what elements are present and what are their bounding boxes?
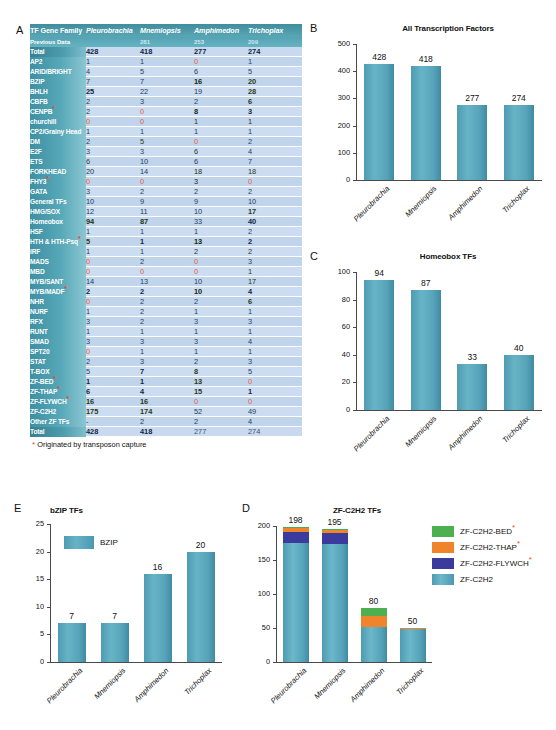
table-cell: 1: [248, 307, 302, 317]
table-row: SMAD3334: [30, 337, 302, 347]
y-tick-label: 0: [326, 175, 350, 184]
y-tick: [47, 552, 50, 553]
table-row: T-BOX5785: [30, 367, 302, 377]
table-cell: 87: [140, 217, 194, 227]
table-cell: 2: [140, 287, 194, 297]
y-tick: [47, 579, 50, 580]
table-cell: 174: [140, 407, 194, 417]
table-row: MYB/SANT14131017: [30, 277, 302, 287]
x-axis: [50, 662, 222, 663]
y-tick: [47, 607, 50, 608]
table-row-label: Total: [30, 427, 86, 437]
table-cell: 5: [86, 237, 140, 247]
table-cell: 1: [86, 377, 140, 387]
table-cell: 0: [140, 107, 194, 117]
table-row: RFX3233: [30, 317, 302, 327]
table-cell: 0: [140, 177, 194, 187]
bar-value-label: 87: [404, 278, 448, 288]
previous-data-value-1: 281: [140, 37, 194, 47]
table-cell: 1: [248, 327, 302, 337]
table-head: TF Gene FamilyPleurobrachiaMnemiopsisAmp…: [30, 24, 302, 47]
x-category-label: Amphimedon: [128, 666, 170, 708]
table-row: DM2502: [30, 137, 302, 147]
chart-c-title: Homeobox TFs: [358, 252, 538, 261]
table-row-label: RUNT: [30, 327, 86, 337]
footnote-text: Originated by transposon capture: [37, 440, 146, 449]
table-cell: 1: [248, 387, 302, 397]
table-cell: 1: [248, 57, 302, 67]
table-cell: 0: [194, 267, 248, 277]
legend-label-bzip: BZIP: [100, 538, 118, 547]
table-body: Total428418277274AP21101ARID/BRIGHT4565B…: [30, 47, 302, 437]
previous-data-value-3: 209: [248, 37, 302, 47]
table-cell: 1: [140, 237, 194, 247]
table-cell: 0: [140, 117, 194, 127]
table-cell: 19: [194, 87, 248, 97]
table-row-label: CENPB*: [30, 107, 86, 117]
table-cell: 13: [194, 237, 248, 247]
table-row-label: Homeobox: [30, 217, 86, 227]
chart-e-plot: 05101520257Pleurobrachia7Mnemiopsis16Amp…: [14, 514, 234, 728]
table-row: GATA3222: [30, 187, 302, 197]
table-row-label: Other ZF TFs: [30, 417, 86, 427]
bar: [144, 574, 172, 662]
table-cell: 3: [140, 337, 194, 347]
table-cell: 10: [248, 197, 302, 207]
table-cell: 7: [140, 77, 194, 87]
table-row: ARID/BRIGHT4565: [30, 67, 302, 77]
table-cell: 3: [140, 357, 194, 367]
bar-segment-zf-c2h2-thap: [322, 530, 348, 533]
table-row: HTH & HTH-Psq*51132: [30, 237, 302, 247]
table-cell: 14: [86, 277, 140, 287]
table-cell: 10: [194, 287, 248, 297]
table-cell: 22: [140, 87, 194, 97]
table-cell: -: [86, 417, 140, 427]
table-cell: 5: [140, 137, 194, 147]
bar-segment-zf-c2h2-thap: [283, 528, 309, 532]
y-tick: [353, 272, 356, 273]
table-cell: 2: [194, 417, 248, 427]
bar-value-label: 7: [93, 611, 137, 621]
table-row-label: STAT: [30, 357, 86, 367]
y-tick: [353, 382, 356, 383]
table-row: ZF-FLYWCH*161600: [30, 397, 302, 407]
table-cell: 2: [194, 357, 248, 367]
table-row-label: NHR: [30, 297, 86, 307]
x-axis: [356, 410, 542, 411]
table-cell: 6: [194, 157, 248, 167]
table-cell: 4: [248, 287, 302, 297]
table-cell: 17: [248, 277, 302, 287]
y-tick: [273, 560, 276, 561]
table-row: BHLH25221928: [30, 87, 302, 97]
y-tick: [47, 634, 50, 635]
table-cell: 15: [194, 387, 248, 397]
bar-value-label: 40: [497, 343, 541, 353]
table-row-label: RFX: [30, 317, 86, 327]
table-row: CBFB2326: [30, 97, 302, 107]
x-category-label: Trichoplax: [489, 414, 531, 456]
bar-value-label: 50: [391, 616, 435, 626]
table-row: AP21101: [30, 57, 302, 67]
table-cell: 5: [86, 367, 140, 377]
table-cell: 5: [248, 67, 302, 77]
table-cell: 274: [248, 47, 302, 57]
bar: [58, 623, 86, 662]
table-cell: 2: [86, 107, 140, 117]
y-tick: [273, 628, 276, 629]
previous-data-value-2: 253: [194, 37, 248, 47]
table-cell: 8: [194, 367, 248, 377]
table-cell: 11: [140, 207, 194, 217]
table-row-label: ZF-C2H2: [30, 407, 86, 417]
legend-entry-zf-c2h2-bed: ZF-C2H2-BED*: [432, 526, 532, 537]
table-row-label: BHLH: [30, 87, 86, 97]
panel-a-letter: A: [16, 24, 23, 36]
table-cell: 4: [86, 67, 140, 77]
table-cell: 4: [140, 387, 194, 397]
table-cell: 10: [86, 197, 140, 207]
table-row-label: ZF-FLYWCH*: [30, 397, 86, 407]
table-cell: 3: [86, 187, 140, 197]
table-row: NURF1211: [30, 307, 302, 317]
table-cell: 0: [86, 297, 140, 307]
transposon-asterisk-icon: *: [52, 105, 55, 112]
chart-b-title: All Transcription Factors: [358, 24, 538, 33]
